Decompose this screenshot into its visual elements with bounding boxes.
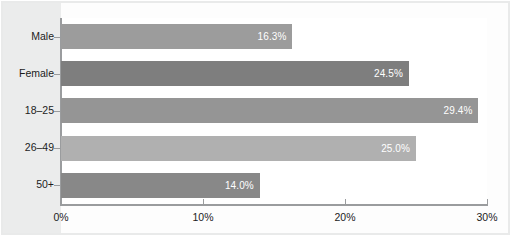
y-axis-label-50-plus: 50+ (0, 178, 54, 190)
bar-18-25[interactable]: 29.4% (61, 98, 478, 123)
y-axis-label-18-25: 18–25 (0, 104, 54, 116)
x-axis-tick-label-10: 10% (192, 211, 213, 223)
x-axis-tick-label-0: 0% (53, 211, 68, 223)
y-axis-tick (54, 148, 60, 149)
bar-value-label-26-49: 25.0% (381, 136, 410, 161)
x-axis-tick (345, 199, 346, 205)
x-axis-tick (61, 199, 62, 205)
y-axis-tick (54, 37, 60, 38)
bar-value-label-female: 24.5% (374, 61, 403, 86)
bar-row: 29.4% (61, 92, 487, 129)
y-axis-tick (54, 185, 60, 186)
bar-26-49[interactable]: 25.0% (61, 136, 416, 161)
x-axis-tick (203, 199, 204, 205)
bar-row: 25.0% (61, 130, 487, 167)
x-axis-tick (487, 199, 488, 205)
bar-row: 16.3% (61, 18, 487, 55)
y-axis-label-male: Male (0, 30, 54, 42)
x-axis-line (60, 204, 488, 206)
y-axis-category-labels: Male Female 18–25 26–49 50+ (0, 18, 54, 204)
y-axis-tick (54, 74, 60, 75)
bar-female[interactable]: 24.5% (61, 61, 409, 86)
bar-50-plus[interactable]: 14.0% (61, 173, 260, 198)
bar-male[interactable]: 16.3% (61, 24, 292, 49)
bars-layer: 16.3% 24.5% 29.4% 25.0% 14.0% (61, 18, 487, 204)
bar-value-label-18-25: 29.4% (444, 98, 473, 123)
bar-chart-figure: Male Female 18–25 26–49 50+ 16.3% 24.5% … (0, 0, 513, 239)
x-axis-tick-label-20: 20% (334, 211, 355, 223)
bar-value-label-50-plus: 14.0% (225, 173, 254, 198)
x-axis-tick-label-30: 30% (476, 211, 497, 223)
y-axis-tick (54, 111, 60, 112)
bar-value-label-male: 16.3% (258, 24, 287, 49)
bar-row: 24.5% (61, 55, 487, 92)
y-axis-label-female: Female (0, 67, 54, 79)
y-axis-label-26-49: 26–49 (0, 141, 54, 153)
bar-row: 14.0% (61, 167, 487, 204)
